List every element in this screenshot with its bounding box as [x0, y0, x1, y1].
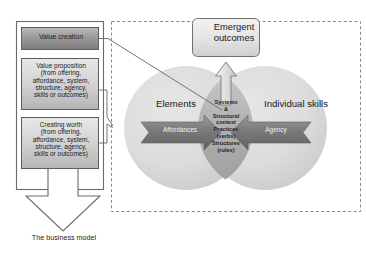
value-proposition-box — [22, 59, 99, 110]
value-creation-box — [22, 28, 99, 50]
business-model-arrow — [26, 169, 100, 231]
diagram-base-layer — [0, 0, 366, 256]
figure-canvas: Value creation Value proposition (from o… — [0, 0, 366, 256]
connector-value-proposition — [99, 90, 114, 126]
creating-worth-box — [22, 118, 99, 169]
connector-creating-worth — [99, 124, 114, 143]
emergent-outcomes-box — [193, 19, 260, 57]
